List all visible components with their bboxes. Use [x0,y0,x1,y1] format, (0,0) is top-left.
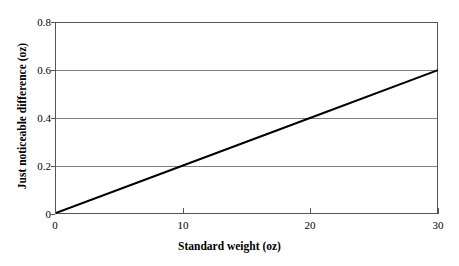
chart-figure: 0 0.2 0.4 0.6 0.8 0 10 20 30 Standard we… [0,0,459,266]
plot-area [55,22,438,214]
x-tick-mark-10 [183,208,184,214]
y-tick-mark-0 [51,214,55,215]
x-tick-mark-20 [310,208,311,214]
x-tick-mark-30 [438,208,439,214]
x-tick-mark-0 [55,208,56,214]
data-series-svg [56,23,437,213]
series-line-weber [56,71,437,214]
x-tick-label-0: 0 [35,219,75,231]
x-tick-label-30: 30 [418,219,458,231]
x-tick-label-20: 20 [290,219,330,231]
y-axis-title: Just noticeable difference (oz) [16,16,28,216]
x-axis-title: Standard weight (oz) [0,240,459,252]
x-tick-label-10: 10 [163,219,203,231]
